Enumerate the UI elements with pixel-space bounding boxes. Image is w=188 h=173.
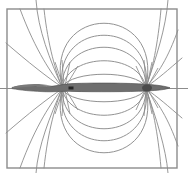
closed-loop-lower-5: [60, 89, 148, 153]
source-fan-left-h: [66, 90, 78, 110]
radial-line-right-dn-2: [146, 89, 178, 146]
radial-line-left-up-1: [6, 43, 62, 87]
source-fan-left-d: [66, 66, 78, 86]
body-right-node: [142, 85, 152, 92]
field-diagram-canvas: [0, 0, 188, 173]
source-fan-right-a: [136, 66, 145, 86]
closed-loop-upper-3: [62, 47, 146, 87]
radial-line-right-up-2: [146, 30, 178, 87]
field-diagram-figure: Dipole field lines around an elongated c…: [0, 0, 188, 173]
radial-line-left-dn-2: [20, 89, 62, 168]
outer-arc-lower-left: [36, 89, 62, 173]
source-fan-right-e: [136, 90, 145, 110]
closed-loop-upper-5: [60, 23, 148, 87]
closed-loops-lower-group: [60, 89, 148, 153]
dipole-body-group: [12, 83, 170, 92]
closed-loop-lower-3: [62, 89, 146, 129]
closed-loops-upper-group: [60, 23, 148, 87]
body-marker: [69, 87, 74, 90]
radial-line-left-dn-1: [6, 89, 62, 133]
radial-line-left-up-2: [20, 9, 62, 87]
